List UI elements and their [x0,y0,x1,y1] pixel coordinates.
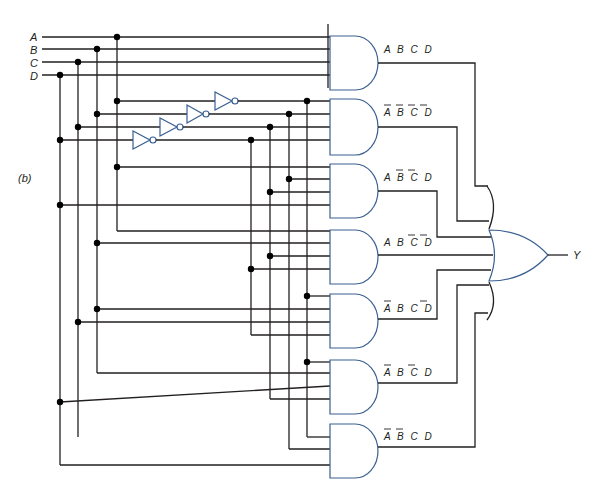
or-gate [487,186,548,320]
input-junctions [57,34,120,78]
svg-text:A B C D: A B C D [383,431,434,442]
input-label-c: C [30,57,38,69]
inverter-c [160,118,183,136]
inverter-d [133,131,156,149]
figure-label: (b) [18,172,32,184]
inverter-b [187,105,209,123]
and5-inputs [75,293,330,335]
and-gate-3 [330,164,378,218]
input-label-b: B [30,44,37,56]
term-label-and1: A B C D [383,44,434,55]
svg-text:A B C D: A B C D [383,44,434,55]
and-to-or-wires [378,63,493,447]
logic-circuit-diagram: (b) A B C D [0,0,599,483]
and-gate-1 [330,36,378,90]
term-label-and6: A B C D [383,365,434,378]
svg-text:A B C D: A B C D [383,172,434,183]
output-label-y: Y [573,249,581,261]
and-gate-5 [330,294,378,348]
svg-text:A B C D: A B C D [383,237,434,248]
svg-text:A B C D: A B C D [383,303,434,314]
and-gate-2 [330,99,378,155]
svg-text:A B C D: A B C D [383,107,434,118]
and-gate-7 [330,424,378,478]
and-gate-6 [330,360,378,414]
inverted-bus [156,98,330,449]
input-label-d: D [30,70,38,82]
and-gate-4 [330,230,378,284]
inverter-a [215,92,238,110]
and4-inputs [94,231,330,272]
term-label-and4: A B C D [383,235,434,248]
term-label-and2: A B C D [383,105,434,118]
svg-text:A B C D: A B C D [383,367,434,378]
input-label-a: A [29,31,37,43]
term-label-and7: A B C D [383,429,434,442]
term-label-and3: A B C D [383,170,434,183]
term-label-and5: A B C D [383,301,434,314]
